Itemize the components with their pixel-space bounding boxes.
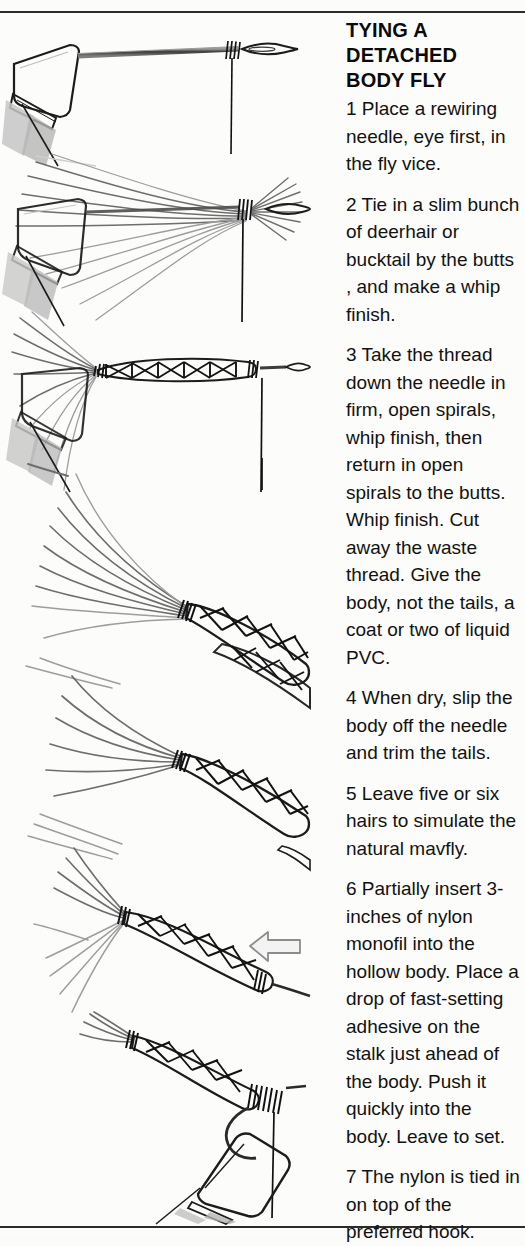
step-paragraph-6: 6 Partially insert 3-inches of nylon mon… [346,875,522,1150]
step-paragraph-5: 5 Leave five or six hairs to simulate th… [346,780,522,863]
page-title-line-3: BODY FLY [346,68,522,93]
figure-step-7-tied-to-hook [0,1012,310,1224]
page-title-line-2: DETACHED [346,43,522,68]
instruction-text-column: TYING A DETACHED BODY FLY 1 Place a rewi… [346,14,522,1222]
page-title-line-1: TYING A [346,18,522,43]
step-paragraph-1: 1 Place a rewiring needle, eye first, in… [346,95,522,178]
step-paragraph-4: 4 When dry, slip the body off the needle… [346,684,522,767]
step-paragraph-7: 7 The nylon is tied in on top of the pre… [346,1163,522,1246]
step-paragraph-2: 2 Tie in a slim bunch of deerhair or buc… [346,191,522,329]
figure-step-2-deerhair-tied-in [0,154,310,329]
insertion-direction-arrow [250,932,300,961]
figure-step-1-needle-in-vice [0,16,310,166]
page-title: TYING A DETACHED BODY FLY [346,18,522,93]
page-rule-top [0,11,525,13]
illustration-column [0,14,318,1222]
step-paragraph-3: 3 Take the thread down the needle in fir… [346,341,522,671]
figure-step-5-trimmed-tails [0,644,310,859]
